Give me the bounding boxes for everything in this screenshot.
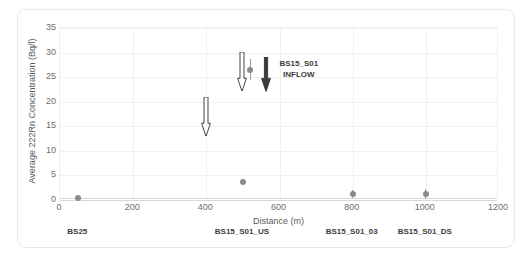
y-tick-label: 25 [30, 72, 56, 81]
category-label: BS25 [67, 228, 87, 236]
x-tick-label: 800 [344, 203, 359, 212]
y-axis-tick-labels: 05101520253035 [26, 27, 56, 199]
x-axis-title: Distance (m) [59, 216, 498, 226]
chart-figure: Average 222Rn Concentration (Bq/l) 05101… [17, 9, 515, 248]
data-point [350, 191, 356, 197]
category-label: BS15_S01_DS [398, 228, 452, 236]
gridline-horizontal [60, 200, 497, 201]
gridline-horizontal [60, 126, 497, 127]
category-label: BS15_S01_US [215, 228, 269, 236]
gridline-horizontal [60, 175, 497, 176]
data-point [247, 67, 253, 73]
x-tick-label: 0 [56, 203, 61, 212]
y-tick-label: 30 [30, 47, 56, 56]
y-tick-label: 0 [30, 195, 56, 204]
inflow-arrow-500-icon [236, 52, 247, 91]
category-label: BS15_S01_03 [326, 228, 378, 236]
gridline-horizontal [60, 28, 497, 29]
inflow-arrow-560-icon [260, 57, 271, 91]
gridline-horizontal [60, 77, 497, 78]
x-tick-label: 200 [125, 203, 140, 212]
gridline-horizontal [60, 102, 497, 103]
inflow-annotation: BS15_S01INFLOW [280, 59, 319, 81]
gridline-vertical [426, 28, 427, 198]
gridline-horizontal [60, 151, 497, 152]
x-tick-label: 400 [198, 203, 213, 212]
x-tick-label: 1000 [415, 203, 435, 212]
annotation-line-1: BS15_S01 [280, 59, 319, 70]
gridline-vertical [353, 28, 354, 198]
y-tick-label: 5 [30, 170, 56, 179]
plot-area: BS15_S01INFLOW [59, 27, 498, 199]
y-tick-label: 20 [30, 96, 56, 105]
data-point [423, 191, 429, 197]
data-point [240, 179, 246, 185]
gridline-horizontal [60, 53, 497, 54]
inflow-arrow-400-icon [201, 97, 212, 136]
x-tick-label: 1200 [488, 203, 508, 212]
category-labels: BS25BS15_S01_USBS15_S01_03BS15_S01_DS [59, 228, 498, 242]
y-tick-label: 15 [30, 121, 56, 130]
annotation-line-2: INFLOW [280, 70, 319, 81]
gridline-vertical [280, 28, 281, 198]
gridline-vertical [133, 28, 134, 198]
x-tick-label: 600 [271, 203, 286, 212]
y-tick-label: 35 [30, 23, 56, 32]
y-tick-label: 10 [30, 145, 56, 154]
x-axis-tick-labels: 020040060080010001200 [59, 203, 498, 217]
